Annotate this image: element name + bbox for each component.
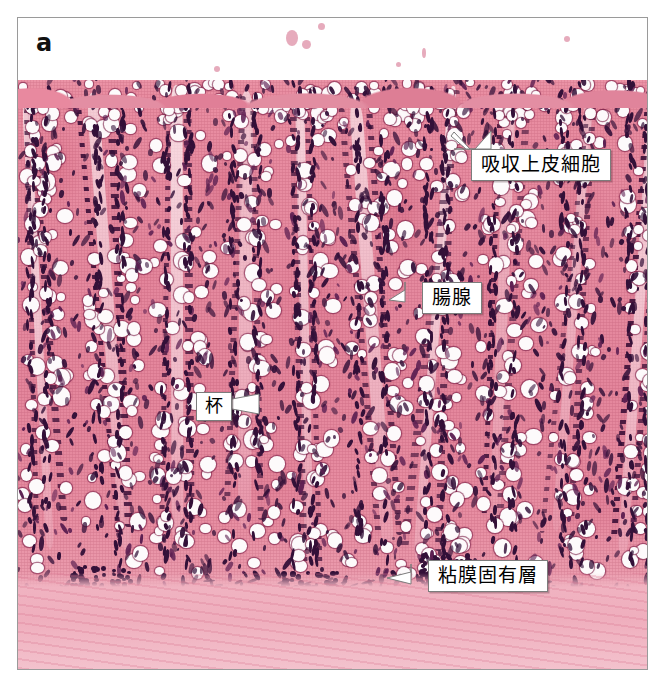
cell-nucleus [131,525,134,533]
columnar-cell-nucleus [120,293,124,304]
luminal-debris [422,48,426,58]
cell-nucleus [180,218,183,225]
columnar-cell-nucleus [99,462,103,474]
cell-nucleus [570,243,573,248]
goblet-cell-vacuole [346,558,357,567]
cell-nucleus [271,422,274,430]
columnar-cell-nucleus [33,521,36,534]
columnar-cell-nucleus [628,461,632,469]
columnar-cell-nucleus [229,298,232,310]
columnar-cell-nucleus [120,360,124,367]
figure-root: a 吸収上皮細胞 腸腺 杯 粘膜固有層 [0,0,669,696]
surface-goblet-cell [597,110,608,121]
cell-nucleus [318,205,321,212]
cell-nucleus [57,551,61,559]
lymphocyte-nucleus [441,555,445,559]
columnar-cell-nucleus [357,303,361,312]
cell-nucleus [481,396,485,401]
columnar-cell-nucleus [116,139,120,146]
columnar-cell-nucleus [511,498,515,508]
cell-nucleus [571,122,574,126]
cell-nucleus [591,434,595,439]
goblet-cell-vacuole [153,495,161,503]
cell-nucleus [639,186,642,192]
columnar-cell-nucleus [115,430,119,439]
columnar-cell-nucleus [625,132,629,138]
columnar-cell-nucleus [441,339,445,352]
columnar-cell-nucleus [644,282,647,290]
goblet-cell-vacuole [494,539,510,557]
columnar-cell-nucleus [558,368,561,376]
columnar-cell-nucleus [115,198,119,205]
cell-nucleus [581,501,585,506]
columnar-cell-nucleus [116,409,120,420]
columnar-cell-nucleus [440,469,445,477]
goblet-cell-vacuole [630,325,639,335]
columnar-cell-nucleus [559,119,562,126]
goblet-cell-vacuole [197,424,209,434]
goblet-cell-vacuole [60,482,72,494]
lymphocyte-nucleus [112,569,116,573]
cell-nucleus [58,178,62,184]
goblet-cell-vacuole [31,563,43,574]
columnar-cell-nucleus [644,344,647,354]
goblet-cell-vacuole [526,218,537,229]
cell-nucleus [459,422,462,429]
columnar-cell-nucleus [425,191,429,199]
columnar-cell-nucleus [644,316,647,327]
columnar-cell-nucleus [644,455,647,466]
columnar-cell-nucleus [561,463,565,470]
columnar-cell-nucleus [444,371,448,379]
cell-nucleus [320,567,324,572]
luminal-debris [564,36,570,42]
columnar-cell-nucleus [644,124,647,131]
cell-nucleus [540,414,544,424]
columnar-cell-nucleus [358,156,361,164]
goblet-cell-vacuole [402,158,413,170]
cell-nucleus [143,309,147,314]
cell-nucleus [403,533,406,540]
cell-nucleus [390,489,396,496]
cell-nucleus [106,401,112,407]
lymphocyte-nucleus [101,566,106,571]
goblet-cell-vacuole [416,437,425,445]
columnar-cell-nucleus [487,300,491,308]
goblet-cell-vacuole [252,279,266,291]
goblet-cell-vacuole [195,286,207,297]
columnar-cell-nucleus [251,117,256,125]
goblet-cell-vacuole [452,393,461,402]
goblet-cell-vacuole [223,152,231,160]
columnar-cell-nucleus [183,480,187,491]
columnar-cell-nucleus [30,386,34,394]
cell-nucleus [570,405,574,416]
cell-nucleus [321,123,324,126]
lymphocyte-nucleus [421,564,424,567]
goblet-cell-vacuole [387,426,401,441]
goblet-cell-vacuole [270,220,280,229]
columnar-cell-nucleus [509,459,513,468]
goblet-cell-vacuole [401,521,411,532]
columnar-cell-nucleus [565,129,569,137]
columnar-cell-nucleus [187,427,191,438]
goblet-cell-vacuole [478,255,487,264]
cell-nucleus [471,361,474,368]
columnar-cell-nucleus [43,385,47,393]
columnar-cell-nucleus [118,534,122,546]
goblet-cell-vacuole [196,131,204,139]
cell-nucleus [18,237,20,244]
cell-nucleus [153,328,157,333]
goblet-cell-vacuole [294,560,307,572]
cell-nucleus [243,255,247,261]
cell-nucleus [125,146,129,151]
cell-nucleus [274,487,277,491]
luminal-debris [286,30,298,46]
goblet-cell-vacuole [529,255,542,268]
goblet-cell-vacuole [564,372,576,384]
cell-nucleus [228,343,232,350]
columnar-cell-nucleus [493,505,497,515]
columnar-cell-nucleus [236,279,240,287]
cell-nucleus [623,267,626,273]
lymphocyte-nucleus [83,565,87,569]
micrograph-image [18,18,647,669]
goblet-cell-vacuole [346,165,356,175]
